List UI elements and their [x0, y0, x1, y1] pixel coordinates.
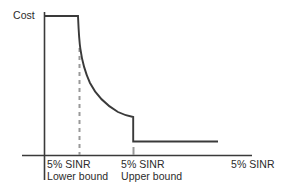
y-axis-title: Cost: [13, 9, 35, 21]
upper-bound-label-line1: 5% SINR: [121, 158, 165, 170]
lower-bound-axis-label: 5% SINR Lower bound: [47, 158, 108, 182]
lower-bound-label-line2: Lower bound: [47, 170, 108, 182]
upper-bound-label-line2: Upper bound: [121, 170, 182, 182]
cost-vs-sinr-diagram: Cost 5% SINR Lower bound 5% SINR Upper b…: [0, 0, 289, 195]
x-axis-title: 5% SINR: [231, 158, 275, 170]
cost-curve: [44, 16, 218, 142]
upper-bound-axis-label: 5% SINR Upper bound: [121, 158, 182, 182]
lower-bound-label-line1: 5% SINR: [47, 158, 91, 170]
